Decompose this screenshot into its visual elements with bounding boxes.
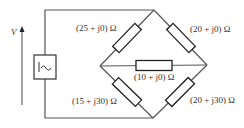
- impedance-label-top-left: (25 + j0) Ω: [76, 24, 117, 33]
- bridge-circuit-diagram: [0, 0, 244, 128]
- ac-source-icon: [34, 55, 56, 79]
- impedance-label-top-right: (20 + j0) Ω: [190, 25, 231, 34]
- voltage-arrow-icon: [20, 26, 25, 105]
- resistor-middle-icon: [136, 61, 172, 71]
- impedance-label-bottom-left: (15 + j30) Ω: [72, 97, 117, 106]
- voltage-label: V: [11, 28, 17, 37]
- impedance-label-middle: (10 + j0) Ω: [134, 73, 175, 82]
- impedance-label-bottom-right: (20 + j30) Ω: [190, 96, 235, 105]
